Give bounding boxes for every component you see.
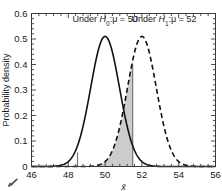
x-tick-label: 54 [173, 169, 184, 180]
chart-figure: 464850525456 00.10.20.30.40.50.6 x̄ Prob… [0, 0, 222, 190]
x-tick-label: 48 [63, 169, 74, 180]
y-tick-label: 0.2 [14, 110, 27, 121]
y-tick-label: 0.3 [14, 84, 27, 95]
y-tick-label: 0 [22, 161, 27, 172]
probability-density-chart: 464850525456 00.10.20.30.40.50.6 x̄ Prob… [0, 0, 222, 190]
y-tick-label: 0.6 [14, 8, 27, 19]
y-tick-label: 0.1 [14, 135, 27, 146]
cursor-artifact-icon [8, 178, 20, 187]
x-tick-label: 56 [210, 169, 221, 180]
y-tick-label: 0.5 [14, 33, 27, 44]
x-tick-label: 50 [100, 169, 111, 180]
x-tick-label: 52 [137, 169, 148, 180]
y-tick-label: 0.4 [14, 59, 27, 70]
y-axis-title: Probability density [1, 53, 11, 127]
x-tick-label: 46 [26, 169, 37, 180]
x-axis-title: x̄ [120, 182, 126, 191]
